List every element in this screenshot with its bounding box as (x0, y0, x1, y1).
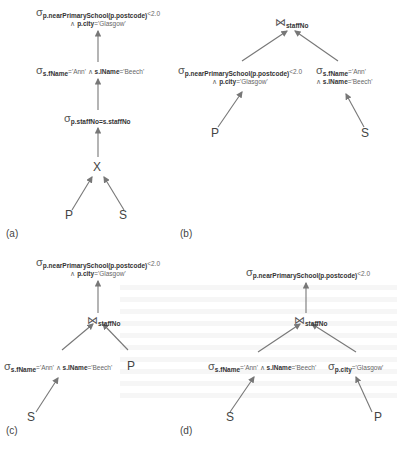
panel-label-c: (c) (6, 425, 18, 436)
a-name-selection: σs.fName='Ann' ∧ s.lName='Beech' (36, 66, 144, 78)
c-leaf-s: S (27, 410, 35, 424)
a-top-selection: σp.nearPrimarySchool(p.postcode)<2.0 ∧ p… (36, 8, 160, 28)
a-leaf-p: P (65, 208, 73, 222)
d-top-selection: σp.nearPrimarySchool(p.postcode)<2.0 (246, 268, 370, 280)
c-join: ⋈staffNo (87, 316, 120, 328)
c-name-selection: σs.fName='Ann' ∧ s.lName='Beech' (4, 362, 112, 374)
a-leaf-s: S (119, 208, 127, 222)
d-city-selection: σp.city='Glasgow' (328, 362, 383, 374)
b-leaf-s: S (361, 126, 369, 140)
panel-label-b: (b) (180, 228, 192, 239)
c-leaf-p: P (127, 359, 135, 373)
panel-label-a: (a) (6, 228, 18, 239)
a-staffno-selection: σp.staffNo=s.staffNo (64, 114, 131, 126)
d-join: ⋈staffNo (294, 316, 327, 328)
d-leaf-s: S (226, 410, 234, 424)
b-join: ⋈staffNo (275, 18, 308, 30)
d-leaf-p: P (374, 410, 382, 424)
b-left-selection: σp.nearPrimarySchool(p.postcode)<2.0 ∧ p… (178, 66, 302, 86)
d-name-selection: σs.fName='Ann' ∧ s.lName='Beech' (208, 362, 316, 374)
b-leaf-p: P (211, 126, 219, 140)
c-top-selection: σp.nearPrimarySchool(p.postcode)<2.0 ∧ p… (36, 258, 160, 278)
b-right-selection: σs.fName='Ann' ∧ s.lName='Beech' (316, 66, 372, 86)
panel-label-d: (d) (180, 425, 192, 436)
a-cartesian-product: X (93, 160, 101, 174)
